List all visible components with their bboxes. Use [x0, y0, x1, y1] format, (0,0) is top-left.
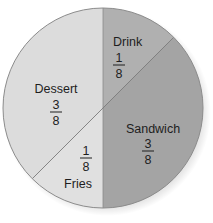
numerator-fries: 1: [83, 144, 90, 158]
numerator-dessert: 3: [53, 98, 60, 112]
denominator-dessert: 8: [53, 114, 60, 128]
label-drink: Drink: [113, 35, 143, 49]
pie-chart: Drink 1 8 Dessert 3 8 Sandwich 3 8 1 8 F…: [0, 0, 213, 223]
numerator-drink: 1: [116, 51, 123, 65]
denominator-sandwich: 8: [145, 153, 152, 167]
label-sandwich: Sandwich: [126, 122, 180, 136]
label-dessert: Dessert: [34, 82, 78, 96]
denominator-drink: 8: [116, 67, 123, 81]
denominator-fries: 8: [83, 160, 90, 174]
label-fries: Fries: [64, 177, 92, 191]
numerator-sandwich: 3: [145, 137, 152, 151]
